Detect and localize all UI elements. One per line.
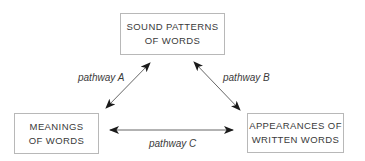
pathway-c-label: pathway C — [149, 138, 196, 149]
node-meanings: MEANINGS OF WORDS — [14, 113, 99, 154]
pathways-diagram: SOUND PATTERNS OF WORDS MEANINGS OF WORD… — [0, 0, 365, 161]
node-label-line: SOUND PATTERNS — [127, 20, 219, 34]
pathway-b-label: pathway B — [223, 72, 270, 83]
node-label-line: OF WORDS — [29, 134, 84, 148]
node-label-line: APPEARANCES OF — [249, 119, 342, 133]
node-sound-patterns: SOUND PATTERNS OF WORDS — [120, 13, 225, 55]
pathway-a-label: pathway A — [78, 72, 124, 83]
node-label-line: MEANINGS — [30, 120, 84, 134]
node-label-line: WRITTEN WORDS — [252, 133, 340, 147]
pathway-a-arrow — [106, 63, 150, 108]
pathway-b-arrow — [194, 62, 240, 110]
node-label-line: OF WORDS — [145, 34, 200, 48]
node-appearances: APPEARANCES OF WRITTEN WORDS — [247, 113, 344, 153]
